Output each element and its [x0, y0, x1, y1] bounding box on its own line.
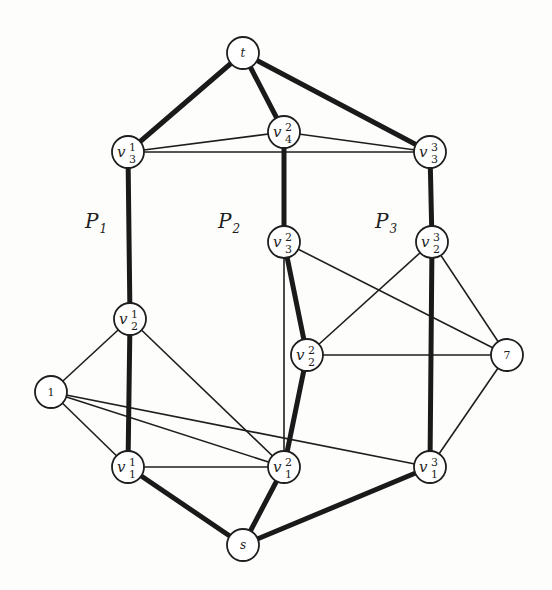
- path-edge-v23-v22: [284, 242, 307, 355]
- svg-text:v: v: [421, 233, 430, 251]
- path-edge-v32-v31: [430, 242, 432, 467]
- node-v32: v32: [416, 226, 448, 258]
- svg-text:1: 1: [285, 468, 292, 481]
- node-n7: 7: [491, 339, 523, 371]
- path-label-2: P2: [217, 209, 240, 236]
- node-v23: v23: [268, 226, 300, 258]
- svg-text:3: 3: [129, 153, 136, 166]
- graph-diagram: P1P2P3 tv13v24v33v23v32v12v2271v11v21v31…: [0, 0, 552, 590]
- node-v11: v11: [112, 451, 144, 483]
- svg-text:v: v: [296, 346, 305, 364]
- path-edge-v13-v12: [128, 152, 130, 319]
- path-edge-v22-v21: [284, 355, 307, 467]
- node-v22: v22: [291, 339, 323, 371]
- svg-text:t: t: [241, 46, 246, 60]
- svg-text:v: v: [419, 143, 428, 161]
- edge-v12-v21: [130, 319, 284, 467]
- svg-text:v: v: [419, 458, 428, 476]
- edge-n1-v21: [51, 392, 284, 467]
- path-edge-v12-v11: [128, 319, 130, 467]
- node-v21: v21: [268, 451, 300, 483]
- svg-text:v: v: [273, 123, 282, 141]
- edge-v32-n7: [432, 242, 507, 355]
- svg-text:v: v: [117, 143, 126, 161]
- path-label-3: P3: [374, 209, 397, 236]
- node-v12: v12: [114, 303, 146, 335]
- svg-text:2: 2: [308, 356, 315, 369]
- edge-n1-v31: [51, 392, 430, 467]
- node-v13: v13: [112, 136, 144, 168]
- edge-v23-n7: [284, 242, 507, 355]
- svg-text:v: v: [117, 458, 126, 476]
- edge-v32-v22: [307, 242, 432, 355]
- svg-text:v: v: [273, 233, 282, 251]
- svg-text:1: 1: [48, 386, 55, 399]
- svg-text:s: s: [240, 538, 246, 552]
- node-s: s: [227, 529, 259, 561]
- path-label-1: P1: [84, 209, 107, 236]
- node-v31: v31: [414, 451, 446, 483]
- svg-text:v: v: [119, 310, 128, 328]
- node-t: t: [227, 37, 259, 69]
- svg-text:v: v: [273, 458, 282, 476]
- graph-nodes: tv13v24v33v23v32v12v2271v11v21v31s: [35, 37, 523, 561]
- node-n1: 1: [35, 376, 67, 408]
- path-edge-v11-s: [128, 467, 243, 545]
- svg-text:3: 3: [431, 153, 438, 166]
- thin-edges: [51, 132, 507, 467]
- svg-text:7: 7: [504, 349, 511, 362]
- path-edge-v31-s: [243, 467, 430, 545]
- svg-text:3: 3: [285, 243, 292, 256]
- edge-n7-v31: [430, 355, 507, 467]
- svg-text:1: 1: [431, 468, 438, 481]
- svg-text:2: 2: [433, 243, 440, 256]
- svg-text:4: 4: [285, 133, 292, 146]
- node-v24: v24: [268, 116, 300, 148]
- path-edge-t-v13: [128, 53, 243, 152]
- svg-text:2: 2: [131, 320, 138, 333]
- svg-text:1: 1: [129, 468, 136, 481]
- node-v33: v33: [414, 136, 446, 168]
